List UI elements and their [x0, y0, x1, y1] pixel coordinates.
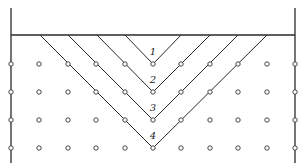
- grid-node: [66, 146, 70, 150]
- grid-node: [151, 90, 155, 94]
- wedge-label-4: 4: [149, 130, 156, 141]
- grid-node: [179, 118, 183, 122]
- grid-node: [151, 118, 155, 122]
- grid-node: [37, 118, 41, 122]
- grid-node: [9, 62, 13, 66]
- grid-node: [123, 90, 127, 94]
- grid-node: [236, 90, 240, 94]
- grid-node: [37, 62, 41, 66]
- grid-node: [37, 146, 41, 150]
- grid-node: [151, 62, 155, 66]
- grid-node: [236, 118, 240, 122]
- grid-node: [66, 118, 70, 122]
- grid-node: [94, 146, 98, 150]
- grid-node: [179, 90, 183, 94]
- grid-node: [9, 146, 13, 150]
- grid-node: [208, 90, 212, 94]
- grid-node: [66, 62, 70, 66]
- grid-node: [9, 118, 13, 122]
- grid-node: [293, 62, 297, 66]
- grid-node: [208, 62, 212, 66]
- grid-node: [123, 146, 127, 150]
- grid-node: [179, 62, 183, 66]
- grid-node: [9, 90, 13, 94]
- grid-node: [208, 118, 212, 122]
- wedge-diagram: 1234: [0, 0, 304, 168]
- grid-node: [236, 146, 240, 150]
- grid-node: [293, 146, 297, 150]
- grid-node: [265, 90, 269, 94]
- grid-node: [123, 62, 127, 66]
- diagram-canvas: 1234: [0, 0, 304, 168]
- grid-node: [293, 90, 297, 94]
- grid-node: [208, 146, 212, 150]
- grid-node: [94, 118, 98, 122]
- grid-node: [37, 90, 41, 94]
- grid-node: [66, 90, 70, 94]
- grid-node: [236, 62, 240, 66]
- wedge-label-3: 3: [150, 102, 156, 113]
- wedge-label-2: 2: [149, 74, 156, 85]
- grid-node: [265, 118, 269, 122]
- grid-node: [265, 146, 269, 150]
- grid-node: [151, 146, 155, 150]
- grid-node: [179, 146, 183, 150]
- grid-node: [265, 62, 269, 66]
- grid-node: [94, 62, 98, 66]
- grid-node: [123, 118, 127, 122]
- grid-node: [293, 118, 297, 122]
- grid-node: [94, 90, 98, 94]
- wedge-label-1: 1: [150, 46, 156, 57]
